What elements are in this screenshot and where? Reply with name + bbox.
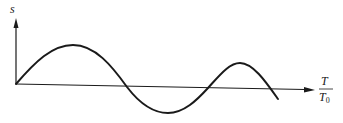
- x-axis: [16, 84, 305, 90]
- wave-diagram: s T T0: [0, 0, 343, 123]
- x-axis-arrow-icon: [304, 87, 315, 93]
- wave-curve: [16, 45, 278, 113]
- y-axis-label: s: [10, 2, 15, 16]
- x-axis-label-numerator: T: [321, 74, 329, 88]
- y-axis-arrow-icon: [14, 18, 19, 28]
- x-axis-label-denominator: T0: [319, 90, 330, 105]
